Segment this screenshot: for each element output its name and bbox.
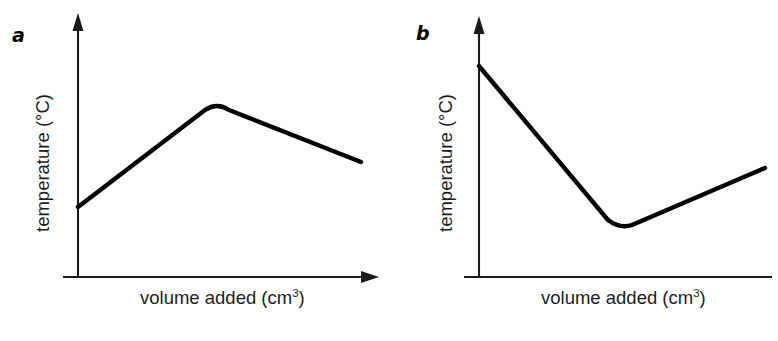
panel-b-x-axis-label: volume added (cm3) <box>541 289 706 308</box>
panel-a-x-axis-label-main: volume added (cm <box>140 287 292 308</box>
panel-a-x-axis-arrow-icon <box>361 271 379 283</box>
panel-b-x-axis-label-close: ) <box>700 287 706 308</box>
panel-a-x-axis-label: volume added (cm3) <box>140 289 305 308</box>
panel-a-y-axis-label: temperature (°C) <box>34 94 53 232</box>
panel-b-temperature-curve <box>479 66 765 226</box>
titration-temperature-figure: a temperature (°C) volume added (cm3) b … <box>0 0 778 341</box>
panel-a-x-axis-label-close: ) <box>299 287 305 308</box>
panel-b: b temperature (°C) volume added (cm3) <box>389 0 778 341</box>
panel-b-x-axis-label-main: volume added (cm <box>541 287 693 308</box>
panel-a-y-axis-arrow-icon <box>73 13 84 31</box>
panel-b-y-axis-label: temperature (°C) <box>437 94 456 232</box>
panel-a: a temperature (°C) volume added (cm3) <box>0 0 389 341</box>
panel-a-temperature-curve <box>78 106 361 207</box>
panel-b-y-axis-arrow-icon <box>474 16 485 34</box>
